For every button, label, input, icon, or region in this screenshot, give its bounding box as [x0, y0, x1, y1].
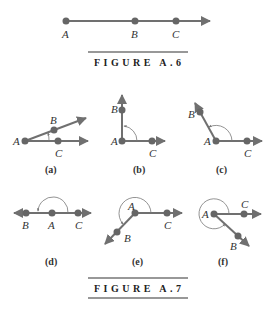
- svg-text:B: B: [50, 114, 57, 126]
- svg-text:A: A: [47, 219, 55, 231]
- label-a: A: [61, 28, 69, 40]
- svg-text:C: C: [244, 147, 252, 159]
- panel-a: A B C (a): [12, 114, 88, 176]
- panel-b: A B C (b): [110, 95, 165, 176]
- panel-c: A B C (c): [188, 103, 262, 176]
- point-a: [63, 18, 70, 25]
- svg-text:B: B: [230, 240, 237, 252]
- svg-text:(b): (b): [133, 164, 145, 176]
- svg-text:C: C: [241, 198, 249, 210]
- svg-text:C: C: [55, 147, 63, 159]
- point-b: [132, 18, 139, 25]
- figure-a6-caption: FIGURE A.6: [94, 57, 185, 68]
- svg-text:C: C: [75, 219, 83, 231]
- svg-text:(c): (c): [216, 164, 227, 176]
- svg-text:A: A: [12, 135, 20, 147]
- svg-text:B: B: [188, 108, 195, 120]
- panel-e: A B C (e): [105, 197, 182, 268]
- svg-text:B: B: [124, 232, 131, 244]
- panel-f: A B C (f): [199, 198, 261, 268]
- svg-text:B: B: [22, 219, 29, 231]
- label-b: B: [131, 28, 138, 40]
- svg-text:A: A: [127, 200, 135, 212]
- svg-text:(f): (f): [218, 256, 228, 268]
- point-c: [173, 18, 180, 25]
- svg-text:(a): (a): [45, 164, 57, 176]
- geometry-figures: A B C FIGURE A.6 A B C (a) A B C (b): [0, 0, 277, 310]
- svg-text:C: C: [164, 219, 172, 231]
- figure-a6-ray: A B C: [61, 18, 210, 41]
- svg-text:(d): (d): [45, 256, 57, 268]
- svg-text:B: B: [111, 103, 118, 115]
- svg-text:C: C: [149, 147, 157, 159]
- svg-text:A: A: [110, 135, 118, 147]
- figure-a7-caption: FIGURE A.7: [94, 283, 185, 294]
- svg-text:A: A: [203, 135, 211, 147]
- panel-d: B A C (d): [14, 197, 91, 268]
- svg-text:A: A: [201, 208, 209, 220]
- svg-text:(e): (e): [132, 256, 143, 268]
- label-c: C: [172, 28, 180, 40]
